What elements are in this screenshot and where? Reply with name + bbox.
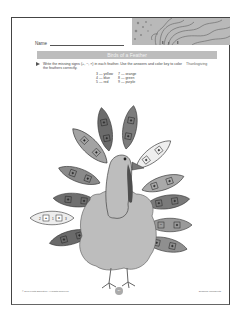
feather-right-2[interactable] <box>140 170 186 196</box>
worksheet-page: Name Birds of a Feather Write the missin… <box>11 17 230 305</box>
svg-text:3: 3 <box>65 217 67 221</box>
svg-text:+: + <box>45 216 47 220</box>
copyright-text: © 2007 Fiesta Education. All Rights Rese… <box>22 290 69 292</box>
feather-left-4[interactable] <box>56 162 102 190</box>
series-label: Seasonal Worksheets <box>199 290 221 292</box>
turkey-illustration: − 2 + 1 = 3 <box>12 18 231 306</box>
feather-top-2[interactable] <box>119 104 140 150</box>
svg-text:=: = <box>58 216 60 220</box>
svg-text:−: − <box>160 223 162 227</box>
turkey-legs <box>102 268 135 289</box>
svg-text:1: 1 <box>52 217 54 221</box>
page-number-badge: 29 <box>115 287 123 295</box>
svg-text:2: 2 <box>39 217 41 221</box>
turkey-eye <box>124 158 127 161</box>
